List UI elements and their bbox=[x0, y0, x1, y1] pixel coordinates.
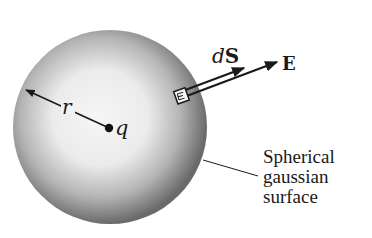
charge-label: q bbox=[115, 118, 128, 139]
area-element-label-d: d bbox=[212, 44, 225, 68]
radius-label: r bbox=[62, 97, 72, 117]
e-field-label: E bbox=[282, 55, 296, 73]
caption-line-2: gaussian bbox=[263, 167, 335, 187]
sphere-caption: Spherical gaussian surface bbox=[263, 147, 335, 207]
caption-leader-line bbox=[203, 160, 258, 176]
caption-line-3: surface bbox=[263, 187, 335, 207]
point-charge-dot bbox=[105, 124, 113, 132]
gaussian-surface-diagram: r q dS E Spherical gaussian surface bbox=[0, 0, 372, 238]
area-element-label: dS bbox=[212, 46, 239, 66]
caption-line-1: Spherical bbox=[263, 147, 335, 167]
area-element-label-s: S bbox=[225, 44, 239, 68]
